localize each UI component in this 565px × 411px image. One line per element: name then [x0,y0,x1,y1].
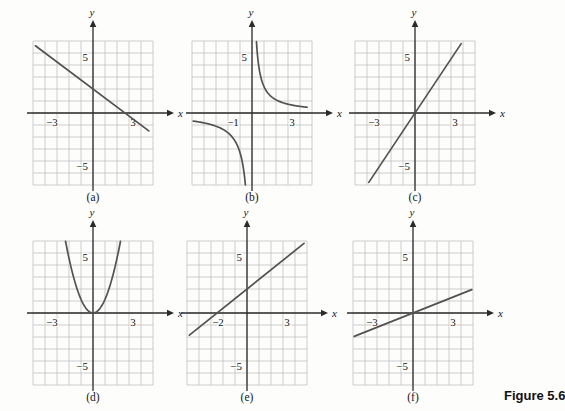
x-axis-arrow-icon [321,310,328,317]
panel-caption: (f) [407,391,419,404]
graph-f: xy−335−5(f) [328,201,506,411]
y-tick-label: 5 [403,251,409,263]
x-tick-label: 3 [284,316,290,328]
x-tick-label: −3 [46,316,58,328]
x-axis-arrow-icon [489,110,496,117]
x-tick-label: 3 [450,316,456,328]
y-axis-arrow-icon [410,220,417,227]
panel-caption: (e) [241,391,254,404]
graph-panel-c: xy−335−5(c) [330,1,508,211]
graph-b: xy−135(b) [167,1,345,211]
y-axis-label: y [89,6,95,18]
x-tick-label: −3 [46,116,58,128]
x-tick-label: −3 [368,116,380,128]
y-tick-label: −5 [76,360,88,372]
x-tick-label: 3 [130,316,136,328]
graph-e: xy−235−5(e) [162,201,340,411]
y-tick-label: −5 [398,160,410,172]
x-tick-label: 3 [289,116,295,128]
graph-panel-e: xy−235−5(e) [162,201,340,411]
y-axis-label: y [248,6,254,18]
y-axis-arrow-icon [249,20,256,27]
y-tick-label: −5 [230,360,242,372]
y-tick-label: −5 [76,160,88,172]
x-tick-label: −3 [366,316,378,328]
panel-caption: (d) [86,391,100,404]
y-axis-arrow-icon [244,220,251,227]
x-tick-label: 3 [452,116,458,128]
y-axis-arrow-icon [90,220,97,227]
y-tick-label: 5 [83,251,89,263]
graph-d: xy−335−5(d) [8,201,186,411]
x-tick-label: −2 [212,316,224,328]
y-axis-label: y [89,206,95,218]
y-tick-label: 5 [237,251,243,263]
x-axis-label: x [497,307,503,319]
y-axis-label: y [243,206,249,218]
y-tick-label: 5 [83,51,89,63]
y-axis-arrow-icon [90,20,97,27]
y-axis-label: y [411,6,417,18]
y-tick-label: −5 [396,360,408,372]
x-axis-arrow-icon [487,310,494,317]
x-tick-label: −1 [227,116,239,128]
figure-5-6-container: xy−335−5(a) xy−135(b) xy−335−5(c) xy−335… [0,0,565,411]
y-tick-label: 5 [405,51,411,63]
curve-b [193,121,245,185]
graph-panel-d: xy−335−5(d) [8,201,186,411]
graph-c: xy−335−5(c) [330,1,508,211]
figure-caption: Figure 5.6 [504,388,565,403]
y-tick-label: 5 [242,51,248,63]
graph-panel-a: xy−335−5(a) [8,1,186,211]
graph-panel-f: xy−335−5(f) [328,201,506,411]
x-axis-label: x [499,107,505,119]
y-axis-label: y [409,206,415,218]
graph-panel-b: xy−135(b) [167,1,345,211]
y-axis-arrow-icon [412,20,419,27]
graph-a: xy−335−5(a) [8,1,186,211]
